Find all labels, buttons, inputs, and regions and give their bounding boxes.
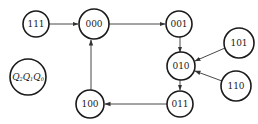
node-110: 110	[221, 71, 251, 101]
node-101: 101	[224, 28, 254, 58]
state-diagram: 111 000 001 101 010 110 011 100	[0, 0, 258, 124]
node-label: 011	[171, 99, 188, 109]
edges	[49, 24, 225, 104]
node-label: 110	[227, 81, 244, 91]
node-label: 001	[170, 19, 187, 29]
legend-state-variables: Q2Q1Q0	[10, 59, 46, 95]
node-111: 111	[23, 11, 49, 37]
node-011: 011	[167, 91, 193, 117]
node-label: 010	[172, 61, 189, 71]
node-001: 001	[166, 11, 192, 37]
node-label: 100	[81, 99, 98, 109]
node-000: 000	[79, 9, 109, 39]
node-label: 101	[230, 38, 247, 48]
edge-101-to-010	[195, 48, 225, 61]
node-010: 010	[167, 52, 195, 80]
node-label: 000	[85, 19, 102, 29]
node-label: 111	[27, 19, 44, 29]
node-100: 100	[76, 90, 104, 118]
legend-label: Q2Q1Q0	[12, 72, 45, 82]
edge-110-to-010	[195, 71, 222, 81]
